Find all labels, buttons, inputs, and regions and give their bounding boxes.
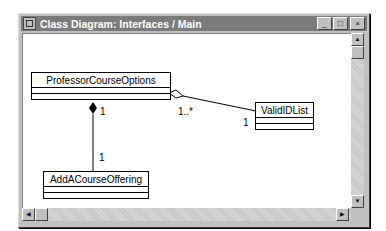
class-add-a-course-offering[interactable]: AddACourseOffering [43, 171, 149, 199]
scroll-left-button[interactable]: ◀ [22, 208, 35, 221]
operations-compartment [32, 94, 170, 99]
class-diagram-window: Class Diagram: Interfaces / Main _ □ × P… [18, 13, 370, 228]
class-name: ValidIDList [256, 103, 313, 118]
vertical-scroll-thumb[interactable] [351, 46, 364, 59]
close-button[interactable]: × [350, 17, 365, 30]
operations-compartment [256, 124, 313, 129]
minimize-button[interactable]: _ [317, 17, 332, 30]
class-professor-course-options[interactable]: ProfessorCourseOptions [31, 72, 171, 100]
scroll-down-button[interactable]: ▼ [351, 195, 364, 208]
vertical-scrollbar[interactable]: ▲ ▼ [351, 33, 364, 208]
resize-grip-icon[interactable] [351, 208, 364, 221]
class-valid-id-list[interactable]: ValidIDList [255, 102, 314, 130]
scroll-right-button[interactable]: ▶ [336, 208, 349, 221]
aggregation-source-multiplicity: 1..* [178, 106, 193, 117]
horizontal-scrollbar[interactable]: ◀ ▶ [22, 208, 351, 221]
composition-target-multiplicity: 1 [99, 152, 105, 163]
operations-compartment [44, 193, 148, 198]
diagram-canvas[interactable]: ProfessorCourseOptions ValidIDList AddAC… [22, 33, 351, 208]
composition-source-multiplicity: 1 [100, 106, 106, 117]
maximize-button[interactable]: □ [333, 17, 348, 30]
scroll-up-button[interactable]: ▲ [351, 33, 364, 46]
title-bar[interactable]: Class Diagram: Interfaces / Main _ □ × [21, 16, 367, 31]
class-name: AddACourseOffering [44, 172, 148, 187]
composition-diamond-icon [89, 102, 97, 114]
window-title: Class Diagram: Interfaces / Main [40, 18, 202, 30]
horizontal-scroll-thumb[interactable] [35, 208, 48, 221]
aggregation-line [183, 96, 256, 111]
window-menu-icon[interactable] [23, 17, 36, 30]
class-name: ProfessorCourseOptions [32, 73, 170, 88]
aggregation-diamond-icon [169, 90, 183, 98]
aggregation-target-multiplicity: 1 [243, 117, 249, 128]
